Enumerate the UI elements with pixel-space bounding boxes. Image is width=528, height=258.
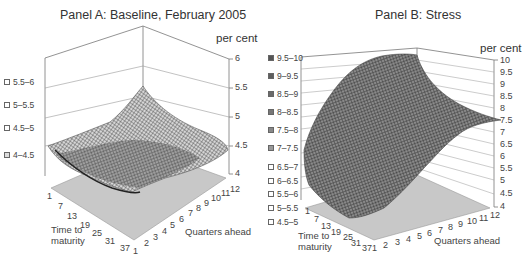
- y-tick: 7: [188, 208, 193, 218]
- z-tick: 6.5: [500, 139, 513, 149]
- legend-swatch: [268, 55, 274, 61]
- legend-item: 8.5–9: [268, 89, 298, 99]
- legend-swatch: [4, 102, 10, 108]
- legend-swatch: [4, 79, 10, 85]
- y-tick: 11: [479, 213, 488, 223]
- x-tick: 31: [351, 238, 361, 248]
- legend-swatch: [268, 109, 274, 115]
- z-tick: 5: [500, 175, 505, 185]
- legend-item: 4–4.5: [4, 150, 34, 160]
- y-tick: 1: [133, 246, 138, 256]
- legend-swatch: [268, 191, 274, 197]
- legend-swatch: [268, 145, 274, 151]
- legend-item: 9.5–10: [268, 53, 303, 63]
- legend-item: 4.5–5: [268, 217, 298, 227]
- x-tick: 19: [331, 227, 341, 237]
- legend-item: 4.5–5: [4, 123, 34, 133]
- z-tick: 7.5: [500, 115, 513, 125]
- legend-item: 5–5.5: [268, 203, 298, 213]
- legend-item: 7.5–8: [268, 125, 298, 135]
- legend-item: 9–9.5: [268, 71, 298, 81]
- y-axis-label: Quarters ahead: [434, 235, 500, 246]
- y-tick: 8: [448, 222, 453, 232]
- y-tick: 10: [211, 193, 221, 203]
- legend-swatch: [4, 125, 10, 131]
- x-tick: 7: [314, 214, 319, 224]
- z-tick: 8.5: [500, 91, 513, 101]
- y-tick: 2: [144, 238, 149, 248]
- panel-a: Panel A: Baseline, February 2005 per cen…: [0, 0, 264, 258]
- y-tick: 12: [230, 184, 240, 194]
- z-tick: 4.5: [235, 140, 248, 150]
- z-tick: 4.5: [500, 188, 513, 198]
- x-tick: 31: [105, 236, 115, 246]
- y-axis-label: Quarters ahead: [185, 226, 251, 237]
- z-tick: 10: [500, 55, 510, 65]
- legend-item: 5–5.5: [4, 100, 34, 110]
- y-tick: 9: [458, 219, 463, 229]
- y-tick: 6: [427, 228, 432, 238]
- legend-item: 8–8.5: [268, 107, 298, 117]
- z-tick: 7: [500, 127, 505, 137]
- z-tick: 4: [500, 201, 505, 211]
- y-tick: 3: [153, 232, 158, 242]
- y-tick: 5: [417, 231, 422, 241]
- legend-item: 6.5–7: [268, 162, 298, 172]
- x-axis-label: Time to maturity: [298, 230, 332, 252]
- x-tick: 25: [92, 228, 102, 238]
- legend-swatch: [268, 178, 274, 184]
- x-tick: 13: [67, 211, 77, 221]
- legend-swatch: [268, 127, 274, 133]
- y-tick: 1: [372, 243, 377, 253]
- x-tick: 1: [305, 206, 310, 216]
- y-tick: 4: [162, 226, 167, 236]
- x-axis-label: Time to maturity: [51, 224, 85, 246]
- legend-swatch: [268, 219, 274, 225]
- x-tick: 37: [362, 243, 372, 253]
- y-tick: 2: [383, 240, 388, 250]
- legend-swatch: [4, 152, 10, 158]
- y-tick: 11: [221, 188, 230, 198]
- z-tick: 4: [235, 168, 240, 178]
- x-tick: 1: [47, 191, 52, 201]
- x-tick: 37: [120, 243, 130, 253]
- z-tick: 5.5: [235, 82, 248, 92]
- panel-b-plot: [264, 0, 528, 258]
- legend-item: 5.5–6: [4, 77, 34, 87]
- y-tick: 6: [179, 214, 184, 224]
- z-tick: 5.5: [500, 163, 513, 173]
- legend-item: 5.5–6: [268, 189, 298, 199]
- y-tick: 5: [170, 220, 175, 230]
- y-tick: 4: [406, 234, 411, 244]
- z-tick: 5: [235, 111, 240, 121]
- z-tick: 8: [500, 103, 505, 113]
- panel-b: Panel B: Stress per cent: [264, 0, 528, 258]
- y-tick: 7: [438, 225, 443, 235]
- z-tick: 9: [500, 79, 505, 89]
- legend-swatch: [268, 164, 274, 170]
- y-tick: 12: [490, 210, 500, 220]
- legend-swatch: [268, 205, 274, 211]
- y-tick: 10: [467, 216, 477, 226]
- z-tick: 6: [235, 53, 240, 63]
- legend-item: 6–6.5: [268, 176, 298, 186]
- legend-swatch: [268, 73, 274, 79]
- y-tick: 9: [204, 198, 209, 208]
- legend-swatch: [268, 91, 274, 97]
- y-tick: 8: [196, 203, 201, 213]
- x-tick: 7: [58, 201, 63, 211]
- z-tick: 6: [500, 151, 505, 161]
- z-tick: 9.5: [500, 67, 513, 77]
- y-tick: 3: [395, 237, 400, 247]
- panel-a-plot: [0, 0, 264, 258]
- legend-item: 7–7.5: [268, 143, 298, 153]
